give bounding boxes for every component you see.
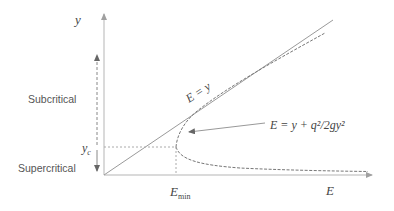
curve-lower-branch [176, 147, 368, 172]
subcritical-label: Subcritical [28, 93, 76, 105]
formula-pointer-arrow [189, 123, 265, 132]
supercritical-label: Supercritical [18, 162, 76, 174]
x-axis-label: E [325, 183, 334, 198]
critical-depth-label: yc [81, 141, 91, 157]
y-axis-label: y [73, 12, 81, 27]
e-equals-y-line [104, 20, 333, 175]
specific-energy-diagram: y E Subcritical Supercritical E = y E = … [0, 0, 394, 211]
min-energy-label: Emin [169, 184, 190, 201]
curve-formula-label: E = y + q²/2gy² [269, 118, 345, 132]
line-label: E = y [182, 79, 213, 106]
